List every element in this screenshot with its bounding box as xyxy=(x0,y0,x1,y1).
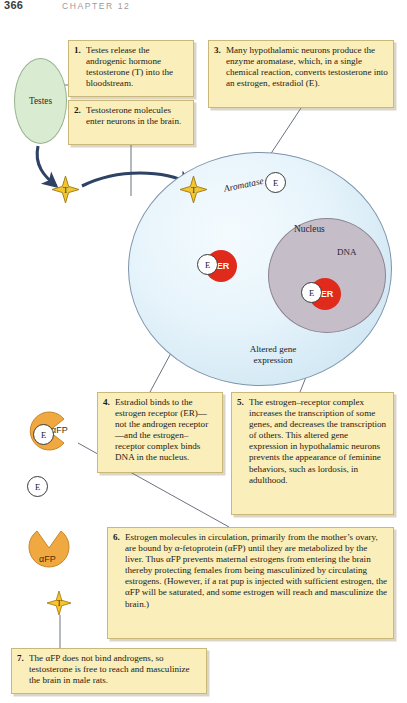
testosterone-molecule: T xyxy=(52,176,79,203)
estradiol-molecule: E xyxy=(265,172,286,193)
estradiol-molecule: E xyxy=(33,424,54,445)
dna-label: DNA xyxy=(337,247,357,257)
estrogen-receptor-label: ER xyxy=(321,289,334,299)
cell-nucleus xyxy=(268,218,386,333)
estradiol-molecule: E xyxy=(197,254,218,275)
step-callout-4: 4. Estradiol binds to the estrogen recep… xyxy=(97,392,223,473)
step-callout-7: 7. The αFP does not bind androgens, so t… xyxy=(11,648,207,694)
testosterone-label: T xyxy=(56,598,61,608)
step-number: 3. xyxy=(214,45,225,56)
step-text: The αFP does not bind androgens, so test… xyxy=(29,653,201,686)
alpha-fetoprotein-label: αFP xyxy=(39,554,56,564)
altered-gene-expression-label: Altered gene expression xyxy=(236,344,310,365)
step-text: Testosterone molecules enter neurons in … xyxy=(86,105,188,127)
step-text: Estradiol binds to the estrogen receptor… xyxy=(115,397,217,464)
step-callout-3: 3. Many hypothalamic neurons produce the… xyxy=(208,40,394,108)
testosterone-label: T xyxy=(63,185,68,195)
testes-organ: Testes xyxy=(14,58,67,144)
step-callout-1: 1. Testes release the androgenic hormone… xyxy=(68,40,194,97)
estradiol-molecule: E xyxy=(27,476,48,497)
step-number: 5. xyxy=(237,397,248,408)
nucleus-label: Nucleus xyxy=(294,224,325,234)
estradiol-molecule: E xyxy=(301,282,322,303)
step-number: 1. xyxy=(74,45,85,56)
step-callout-5: 5. The estrogen–receptor complex increas… xyxy=(231,392,394,515)
step-number: 4. xyxy=(103,397,114,408)
testosterone-molecule: T xyxy=(47,591,71,615)
chapter-label: CHAPTER 12 xyxy=(62,1,130,11)
alpha-fetoprotein-unbound: αFP xyxy=(21,520,77,576)
step-text: Estrogen molecules in circulation, prima… xyxy=(125,532,388,610)
step-text: The estrogen–receptor complex increases … xyxy=(249,397,388,486)
step-number: 2. xyxy=(74,105,85,116)
step-number: 7. xyxy=(17,653,28,664)
page-header: 366 CHAPTER 12 xyxy=(0,0,407,16)
testosterone-label: T xyxy=(191,185,196,195)
step-text: Testes release the androgenic hormone te… xyxy=(86,45,188,89)
step-callout-2: 2. Testosterone molecules enter neurons … xyxy=(68,100,194,145)
step-callout-6: 6. Estrogen molecules in circulation, pr… xyxy=(107,527,394,639)
testosterone-molecule: T xyxy=(180,176,207,203)
testes-label: Testes xyxy=(29,96,52,106)
step-text: Many hypothalamic neurons produce the en… xyxy=(226,45,388,89)
page-number: 366 xyxy=(4,0,23,11)
step-number: 6. xyxy=(113,532,124,543)
estrogen-receptor-label: ER xyxy=(217,261,230,271)
